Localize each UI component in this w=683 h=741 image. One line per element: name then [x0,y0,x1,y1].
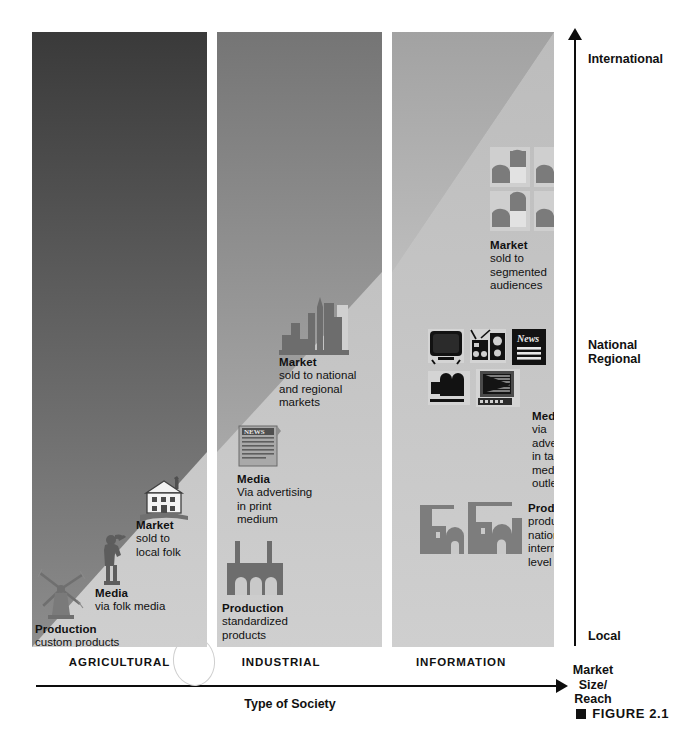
cell-agricultural-media-icon [95,532,131,590]
label-line: medium [237,513,312,526]
label-line: local folk [136,546,181,559]
label-title: Production [528,502,554,515]
label-line: custom products [35,636,125,647]
label-title: Market [490,239,554,252]
label-line: products [222,629,288,642]
y-tick-local: Local [588,629,621,643]
cell-information-production-icon [420,496,524,558]
television-icon [428,329,464,364]
windmill-icon [35,565,87,621]
label-line: markets [279,396,356,409]
y-tick-international: International [588,52,663,66]
label-line: sold to national [279,369,356,382]
label-title: Production [35,623,125,636]
x-category-information: INFORMATION [386,656,536,668]
newspaper-icon: NEWS [237,422,283,470]
y-axis-line [574,36,576,646]
label-title: Market [279,356,356,369]
x-category-industrial: INDUSTRIAL [208,656,354,668]
newspaper-masthead-text: NEWS [244,428,265,436]
cell-information-market-icon [490,147,554,231]
cell-information-media-icons: News [428,329,552,407]
label-line: via folk media [95,600,165,613]
factory-icon [222,537,290,599]
x-axis-line [36,685,558,687]
column-industrial: Market sold to national and regional mar… [217,32,382,647]
cell-industrial-media-icon: NEWS [237,422,283,470]
cell-agricultural-production-icon [35,565,87,621]
label-line: standardized [222,615,288,628]
column-information: Market sold to segmented audiences [392,32,554,647]
cell-industrial-market-icon [279,295,351,357]
y-axis-title-line: Market [562,663,624,678]
label-title: Media [237,473,312,486]
city-skyline-icon [279,295,351,357]
cell-information-market-label: Market sold to segmented audiences [490,239,554,293]
x-category-agricultural: AGRICULTURAL [53,656,186,668]
cell-information-production-label: Production products on national/ interna… [528,502,554,569]
label-line: and regional [279,383,356,396]
cell-agricultural-media-label: Media via folk media [95,587,165,614]
newspaper-masthead-text: News [516,333,539,344]
label-line: sold to segmented [490,252,554,279]
cell-agricultural-market-icon [136,475,192,523]
cell-information-media-label: Media via advertising in targeted media … [532,410,554,490]
y-axis-title-line: Size/ [562,678,624,693]
label-title: Media [532,410,554,423]
figure-2-1: Market sold to local folk Media [0,0,683,741]
label-title: Media [95,587,165,600]
label-line: in targeted [532,450,554,463]
y-tick-line: Regional [588,352,641,366]
cell-agricultural-production-label: Production custom products made by hand … [35,623,125,647]
media-icon-cluster: News [428,329,552,407]
cell-industrial-production-label: Production standardized products [222,602,288,642]
industrial-plants-icon [420,496,524,558]
y-tick-line: National [588,338,641,352]
label-line: international [528,542,554,555]
stereo-radio-icon [470,329,506,363]
y-axis-title: Market Size/ Reach [562,663,624,707]
cell-industrial-production-icon [222,537,290,599]
figure-caption-text: FIGURE 2.1 [592,706,669,721]
cottage-house-icon [136,475,192,523]
label-line: national/ [528,529,554,542]
label-title: Market [136,519,181,532]
label-line: media outlets [532,464,554,491]
square-bullet-icon [576,709,586,719]
y-axis-title-line: Reach [562,692,624,707]
label-line: via advertising [532,423,554,450]
column-agricultural: Market sold to local folk Media [32,32,207,647]
figure-caption: FIGURE 2.1 [576,706,669,721]
label-line: Via advertising [237,486,312,499]
plot-area: Market sold to local folk Media [32,32,554,647]
computer-monitor-icon [476,369,520,407]
cell-agricultural-market-label: Market sold to local folk [136,519,181,559]
label-line: level [528,556,554,569]
segmented-audience-grid-icon [490,147,554,231]
x-axis-title: Type of Society [200,697,380,711]
cell-industrial-media-label: Media Via advertising in print medium [237,473,312,527]
cell-industrial-market-label: Market sold to national and regional mar… [279,356,356,410]
label-line: products on [528,515,554,528]
label-line: sold to [136,532,181,545]
y-tick-national-regional: National Regional [588,338,641,366]
label-line: audiences [490,279,554,292]
label-title: Production [222,602,288,615]
film-camera-icon [428,371,470,405]
bagpiper-folk-icon [95,532,131,590]
label-line: in print [237,500,312,513]
newspaper-icon: News [512,329,546,365]
